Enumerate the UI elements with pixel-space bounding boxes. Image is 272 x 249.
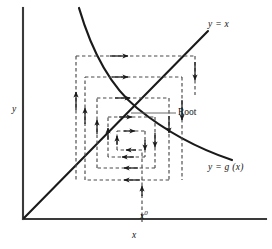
diagram-canvas [0, 0, 272, 249]
curve-label-identity: y = x [208, 20, 229, 30]
cobweb-diagram: y = x y = g (x) Root x0 x y [0, 0, 272, 249]
y-axis-label: y [12, 105, 16, 115]
identity-line [24, 31, 208, 218]
initial-guess-superscript: 0 [144, 209, 148, 217]
root-label: Root [178, 108, 196, 118]
x-axis-label: x [132, 231, 136, 241]
curve-label-iteration: y = g (x) [208, 163, 244, 173]
initial-guess-label: x0 [140, 210, 148, 222]
